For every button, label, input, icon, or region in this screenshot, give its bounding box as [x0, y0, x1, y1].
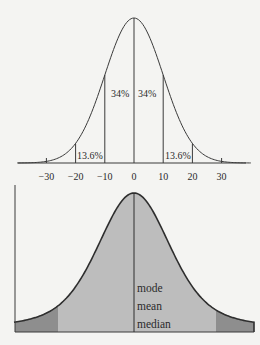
x-tick-label: −20 [68, 171, 84, 182]
x-tick-label: 30 [217, 171, 227, 182]
x-tick-label: 10 [158, 171, 168, 182]
label-34-left: 34% [111, 88, 129, 99]
x-tick-labels: −30−20−100102030 [39, 171, 227, 182]
figure: −30−20−100102030 34% 34% 13.6% 13.6% mod… [0, 0, 260, 345]
x-tick-label: 20 [187, 171, 197, 182]
x-tick-label: −30 [39, 171, 55, 182]
label-34-right: 34% [138, 88, 156, 99]
label-mode: mode [137, 282, 163, 294]
label-13-6-left: 13.6% [77, 150, 103, 161]
top-normal-chart: −30−20−100102030 34% 34% 13.6% 13.6% [17, 18, 251, 182]
right-tail-fill [216, 185, 256, 332]
label-median: median [137, 318, 171, 330]
label-mean: mean [137, 300, 162, 312]
sd-lines [76, 18, 193, 163]
x-tick-label: 0 [132, 171, 137, 182]
label-13-6-right: 13.6% [165, 150, 191, 161]
x-tick-label: −10 [97, 171, 113, 182]
bottom-shaded-chart: mode mean median [14, 185, 256, 332]
